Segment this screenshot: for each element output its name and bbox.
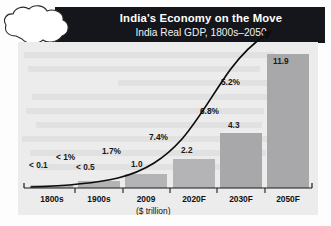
value-label-1900s: < 0.5: [76, 162, 95, 172]
xtick-2030F: 2030F: [217, 194, 265, 204]
growth-label-5: 5.2%: [221, 77, 240, 87]
title-banner-inner: India's Economy on the Move India Real G…: [55, 7, 325, 43]
xtick-2050F: 2050F: [264, 194, 312, 204]
chart-subtitle: India Real GDP, 1800s–2050: [135, 26, 266, 39]
xtick-1900s: 1900s: [75, 194, 123, 204]
bar-2009: [125, 174, 167, 188]
title-banner: India's Economy on the Move India Real G…: [55, 7, 325, 43]
value-label-1800s: < 0.1: [29, 160, 48, 170]
xtick-2020F: 2020F: [170, 194, 218, 204]
growth-label-4: 6.8%: [200, 106, 219, 116]
value-label-2020F: 2.2: [181, 145, 193, 155]
xtick-2009: 2009: [122, 194, 170, 204]
growth-label-3: 7.4%: [149, 132, 168, 142]
bar-1900s: [78, 181, 120, 188]
chart-plot-area: < 0.1 < 0.5 1.0 2.2 4.3 11.9 < 1% 1.7% 7…: [18, 42, 318, 215]
chart-figure: India's Economy on the Move India Real G…: [0, 0, 331, 226]
bar-2030F: [220, 133, 262, 188]
xtick-1800s: 1800s: [28, 194, 76, 204]
axis-units-caption: ($ trillion): [136, 206, 170, 215]
value-label-2050F: 11.9: [273, 56, 289, 66]
cloud-icon: [2, 3, 74, 47]
value-label-2030F: 4.3: [228, 120, 240, 130]
growth-label-2: 1.7%: [102, 146, 121, 156]
value-label-2009: 1.0: [131, 159, 143, 169]
chart-title: India's Economy on the Move: [120, 12, 282, 25]
bar-2020F: [173, 159, 215, 188]
growth-label-1: < 1%: [56, 152, 75, 162]
bar-2050F: [267, 54, 309, 188]
bar-1800s: [31, 185, 73, 188]
